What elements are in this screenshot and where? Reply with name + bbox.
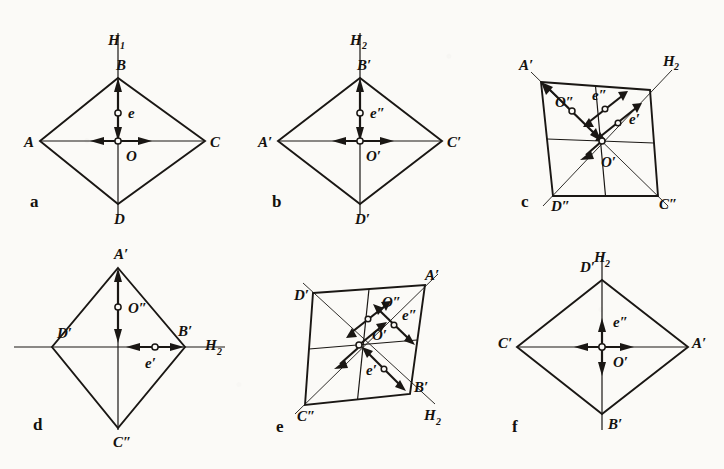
panel-b-point-O [357,138,363,144]
panel-d-label-C: C″ [113,434,131,450]
panel-f-arrow-horizontal [574,343,634,351]
panel-c-point-O-prime [599,138,605,144]
panel-e-label-C: C″ [297,408,315,424]
panel-d-arrow-vertical [114,268,122,343]
panel-e-point-O-double-prime [365,316,371,322]
panel-a-label-D: D [113,211,125,227]
panel-c-diagonal-swne [543,70,672,206]
panel-a-arrow-vertical [114,78,122,141]
panel-e: D′ A′ C″ B′ O″ e″ O′ e′ H 2 e [276,267,441,436]
panel-e-label-O-double-prime: O″ [382,294,401,310]
panel-d-letter: d [33,415,43,434]
panel-d-label-A: A′ [113,246,128,262]
panel-e-label-O-prime: O′ [372,327,387,343]
panel-b-arrow-horizontal [332,137,394,145]
panel-a-arrow-horizontal [90,137,152,145]
panel-d-arrow-horizontal [126,343,184,351]
panel-d-label-H: H [204,337,218,353]
panel-a-label-A: A [23,134,34,150]
figure-plate: A B C D e O H 1 a A′ B′ C′ D′ e″ O′ H [0,0,724,469]
panel-c-point-e-prime [615,120,621,126]
panel-a-letter: a [30,192,39,211]
panel-b-label-B: B′ [356,57,371,73]
panel-e-letter: e [276,417,284,436]
panel-e-label-H: H [423,407,437,423]
panel-e-point-e-double-prime [391,322,397,328]
panel-f-label-e: e″ [613,314,628,330]
panel-b-label-O: O′ [366,148,381,164]
panel-d-label-D: D′ [56,325,72,341]
panel-a-label-H-sub: 1 [120,40,125,51]
panel-a-label-B: B [115,57,126,73]
panel-a-label-e: e [128,105,135,121]
panel-b-label-e: e″ [370,105,385,121]
panel-f: D′ C′ A′ B′ e″ O′ H 2 f [498,249,706,436]
panel-b-label-H: H [349,32,363,48]
panel-b: A′ B′ C′ D′ e″ O′ H 2 b [257,32,461,227]
panel-e-label-e-prime: e′ [366,362,377,378]
panel-c-label-O-prime: O′ [601,154,616,170]
panel-e-label-e-double-prime: e″ [402,307,417,323]
panel-b-label-D: D′ [354,211,370,227]
panel-a-label-O: O [126,148,137,164]
panel-c-label-D: D″ [550,198,570,214]
panel-e-label-H-sub: 2 [435,416,441,427]
panel-d-point-O-double-prime [115,304,121,310]
panel-f-label-H-sub: 2 [604,258,610,269]
panel-d-point-e-prime [152,344,158,350]
figure-svg: A B C D e O H 1 a A′ B′ C′ D′ e″ O′ H [0,0,724,469]
panel-a: A B C D e O H 1 a [23,32,221,227]
panel-a-point-e [115,110,121,116]
panel-c-point-e-double-prime [602,106,608,112]
panel-a-label-H: H [107,32,121,48]
panel-f-label-O: O′ [613,354,628,370]
panel-c-label-O-double-prime: O″ [555,94,574,110]
panel-b-arrow-vertical [356,78,364,141]
panel-c-label-e-double-prime: e″ [592,87,607,103]
panel-c: A′ D″ C″ O″ e″ e′ O′ H 2 c [518,53,679,214]
panel-b-letter: b [272,192,281,211]
panel-e-point-e-prime [381,366,387,372]
panel-c-letter: c [521,192,529,211]
panel-f-label-A: A′ [691,335,706,351]
panel-f-point-O-prime [599,344,605,350]
panel-f-label-D: D′ [579,259,595,275]
panel-d: A′ D′ B′ C″ O″ e′ H 2 d [14,246,225,450]
panel-e-label-A: A′ [424,267,439,283]
panel-b-label-H-sub: 2 [361,40,367,51]
panel-e-label-D: D′ [293,287,309,303]
panel-d-label-e-prime: e′ [145,355,156,371]
panel-b-point-e [357,110,363,116]
panel-e-arrow-center-sw [334,348,358,369]
panel-b-label-A: A′ [257,134,272,150]
panel-e-point-O-prime [356,342,362,348]
panel-c-label-H-sub: 2 [673,61,679,72]
panel-d-label-H-sub: 2 [216,346,222,357]
panel-b-label-C: C′ [447,134,461,150]
panel-f-label-B: B′ [607,416,622,432]
panel-d-label-B: B′ [177,323,192,339]
panel-d-label-O-double-prime: O″ [128,300,147,316]
panel-c-label-A: A′ [518,57,533,73]
panel-f-letter: f [512,417,518,436]
panel-c-label-C: C″ [659,196,677,212]
panel-c-label-e-prime: e′ [629,111,640,127]
panel-f-label-C: C′ [498,335,512,351]
panel-a-label-C: C [210,134,221,150]
panel-a-point-O [115,138,121,144]
panel-e-label-B: B′ [413,379,428,395]
